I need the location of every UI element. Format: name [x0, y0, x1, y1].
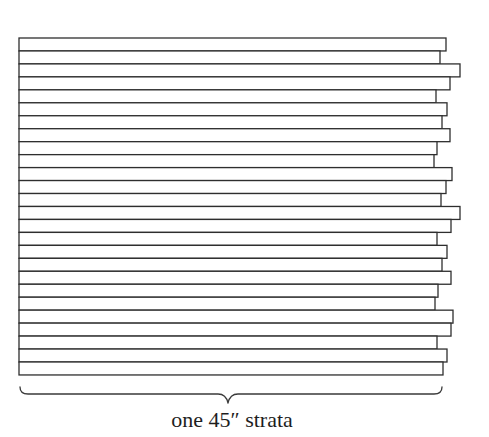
strata-layer	[19, 77, 450, 90]
strata-layers	[19, 38, 460, 375]
strata-layer	[19, 206, 460, 219]
strata-layer	[19, 284, 438, 297]
strata-layer	[19, 181, 446, 194]
strata-layer	[19, 90, 436, 103]
strata-layer	[19, 232, 437, 245]
strata-layer	[19, 194, 441, 207]
strata-layer	[19, 129, 450, 142]
strata-layer	[19, 310, 453, 323]
strata-layer	[19, 51, 440, 64]
strata-layer	[19, 336, 437, 349]
strata-layer	[19, 38, 446, 51]
strata-layer	[19, 258, 442, 271]
strata-layer	[19, 362, 443, 375]
strata-layer	[19, 271, 451, 284]
strata-layer	[19, 168, 452, 181]
strata-layer	[19, 323, 451, 336]
strata-layer	[19, 116, 442, 129]
strata-layer	[19, 64, 460, 77]
strata-caption: one 45″ strata	[171, 407, 293, 432]
curly-brace	[20, 387, 442, 403]
strata-layer	[19, 142, 437, 155]
strata-diagram: one 45″ strata	[0, 0, 489, 437]
strata-layer	[19, 103, 447, 116]
strata-layer	[19, 245, 447, 258]
strata-layer	[19, 155, 434, 168]
strata-layer	[19, 349, 447, 362]
strata-layer	[19, 219, 451, 232]
strata-layer	[19, 297, 435, 310]
